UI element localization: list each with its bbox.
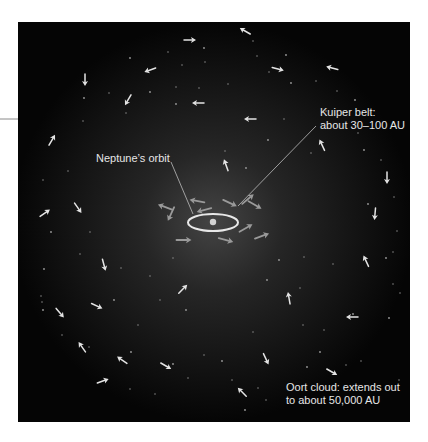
oort-cloud-label-line-1: Oort cloud: extends out bbox=[286, 381, 400, 394]
star-dot bbox=[357, 132, 358, 133]
star-dot bbox=[256, 55, 257, 56]
kuiper-belt-label-line-2: about 30–100 AU bbox=[320, 119, 405, 132]
star-dot bbox=[252, 331, 253, 332]
star-dot bbox=[303, 256, 304, 257]
oort-cloud-diagram bbox=[0, 0, 428, 442]
star-dot bbox=[198, 87, 199, 88]
star-dot bbox=[159, 299, 160, 300]
star-dot bbox=[175, 103, 177, 105]
star-dot bbox=[231, 379, 232, 380]
star-dot bbox=[88, 346, 89, 347]
star-dot bbox=[224, 150, 225, 151]
star-dot bbox=[40, 295, 41, 296]
star-dot bbox=[265, 399, 266, 400]
star-dot bbox=[108, 92, 109, 93]
star-dot bbox=[83, 97, 85, 99]
oort-cloud-label-line-2: to about 50,000 AU bbox=[286, 394, 400, 407]
star-dot bbox=[310, 152, 311, 153]
star-dot bbox=[392, 251, 393, 252]
neptunes-orbit-label-line-1: Neptune’s orbit bbox=[96, 152, 170, 165]
star-dot bbox=[129, 57, 131, 59]
star-dot bbox=[352, 313, 354, 315]
star-dot bbox=[149, 275, 150, 276]
star-dot bbox=[204, 61, 205, 62]
star-dot bbox=[203, 354, 204, 355]
star-dot bbox=[42, 179, 43, 180]
star-dot bbox=[43, 268, 45, 270]
sun-icon bbox=[210, 219, 216, 225]
star-dot bbox=[175, 86, 176, 87]
star-dot bbox=[130, 351, 132, 353]
star-dot bbox=[252, 40, 253, 41]
star-dot bbox=[332, 263, 333, 264]
star-dot bbox=[323, 329, 324, 330]
star-dot bbox=[268, 71, 269, 72]
star-dot bbox=[385, 257, 387, 259]
star-dot bbox=[245, 167, 247, 169]
kuiper-belt-label-line-1: Kuiper belt: bbox=[320, 106, 405, 119]
star-dot bbox=[363, 149, 365, 151]
star-dot bbox=[187, 377, 188, 378]
star-dot bbox=[137, 324, 138, 325]
star-dot bbox=[393, 196, 394, 197]
kuiper-belt-label: Kuiper belt: about 30–100 AU bbox=[320, 106, 405, 132]
star-dot bbox=[61, 334, 62, 335]
star-dot bbox=[244, 409, 246, 411]
star-dot bbox=[306, 366, 308, 368]
star-dot bbox=[79, 253, 80, 254]
star-dot bbox=[266, 279, 268, 281]
star-dot bbox=[125, 112, 126, 113]
star-dot bbox=[185, 309, 187, 311]
star-dot bbox=[89, 231, 90, 232]
star-dot bbox=[380, 159, 381, 160]
star-dot bbox=[360, 360, 361, 361]
star-dot bbox=[345, 364, 346, 365]
star-dot bbox=[203, 47, 205, 49]
star-dot bbox=[221, 360, 223, 362]
star-dot bbox=[283, 118, 284, 119]
star-dot bbox=[396, 230, 397, 231]
star-dot bbox=[299, 287, 300, 288]
star-dot bbox=[120, 267, 121, 268]
star-dot bbox=[113, 299, 115, 301]
star-dot bbox=[67, 170, 68, 171]
star-dot bbox=[319, 351, 321, 353]
star-dot bbox=[399, 292, 400, 293]
star-dot bbox=[302, 324, 303, 325]
star-dot bbox=[172, 257, 173, 258]
star-dot bbox=[181, 64, 182, 65]
star-dot bbox=[227, 83, 228, 84]
star-dot bbox=[257, 387, 258, 388]
star-dot bbox=[354, 99, 356, 101]
star-dot bbox=[388, 317, 390, 319]
star-dot bbox=[336, 90, 337, 91]
neptunes-orbit-label: Neptune’s orbit bbox=[96, 152, 170, 165]
star-dot bbox=[149, 91, 151, 93]
star-dot bbox=[290, 82, 292, 84]
star-dot bbox=[267, 139, 269, 141]
oort-cloud-label: Oort cloud: extends out to about 50,000 … bbox=[286, 381, 400, 407]
star-dot bbox=[285, 54, 287, 56]
star-dot bbox=[315, 80, 316, 81]
star-dot bbox=[50, 231, 52, 233]
star-dot bbox=[41, 301, 42, 302]
star-dot bbox=[154, 393, 155, 394]
star-dot bbox=[167, 51, 168, 52]
star-dot bbox=[172, 363, 174, 365]
star-dot bbox=[278, 259, 280, 261]
star-dot bbox=[392, 283, 393, 284]
star-dot bbox=[42, 309, 44, 311]
star-dot bbox=[129, 388, 130, 389]
star-dot bbox=[82, 120, 83, 121]
star-dot bbox=[367, 203, 369, 205]
